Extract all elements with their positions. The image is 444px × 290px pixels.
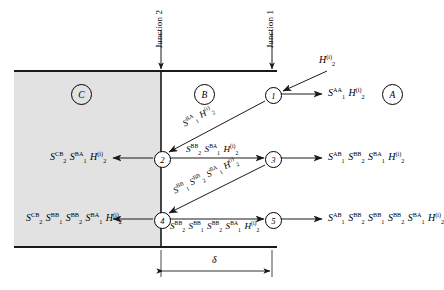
junction-2-label: Junction 2 bbox=[154, 10, 164, 48]
node-4-text: 4 bbox=[160, 216, 164, 226]
region-label-b: B bbox=[194, 84, 215, 105]
node-4: 4 bbox=[154, 212, 171, 229]
delta-dimension-label: δ bbox=[212, 254, 217, 265]
node-3-text: 3 bbox=[271, 155, 275, 165]
junction-1-label: Junction 1 bbox=[265, 10, 275, 48]
region-c-text: C bbox=[78, 90, 84, 100]
node-2: 2 bbox=[154, 151, 171, 168]
node2-output-label: SCB2SBA1H(i)2 bbox=[50, 151, 106, 162]
region-b-text: B bbox=[202, 90, 208, 100]
node-2-text: 2 bbox=[160, 155, 164, 165]
ray-4-to-5-label: SBB2SBB1SBB2SBA1H(i)2 bbox=[170, 221, 259, 231]
incident-field-label: H(i)2 bbox=[319, 54, 335, 65]
node-3: 3 bbox=[265, 151, 282, 168]
region-label-a: A bbox=[382, 84, 403, 105]
node-5-text: 5 bbox=[271, 216, 275, 226]
region-label-c: C bbox=[71, 84, 92, 105]
ray-2-to-3-label: SBB2SBA1H(i)2 bbox=[186, 144, 238, 154]
node-1-text: 1 bbox=[271, 91, 275, 101]
node-1: 1 bbox=[265, 87, 282, 104]
node3-output-label: SAB1SBB2SBA1H(i)2 bbox=[328, 151, 404, 162]
node-5: 5 bbox=[265, 212, 282, 229]
incident-ray-arrow bbox=[283, 71, 327, 91]
region-a-text: A bbox=[390, 90, 396, 100]
node1-output-label: SAA1H(i)2 bbox=[328, 87, 365, 98]
node5-output-label: SAB1SBB2SBB1SBB2SBA1H(i)2 bbox=[328, 212, 444, 223]
node4-output-label: SCB2SBB1SBB2SBA1H(i)2 bbox=[26, 212, 122, 223]
